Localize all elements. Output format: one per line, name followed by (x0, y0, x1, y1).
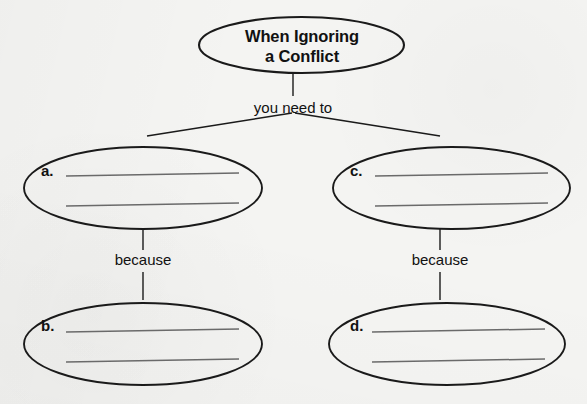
writing-line-a-1 (66, 173, 239, 176)
writing-line-b-1 (66, 329, 239, 332)
ellipse-label-c: c. (350, 163, 363, 178)
writing-line-d-1 (372, 329, 545, 332)
ellipse-label-d: d. (350, 318, 363, 333)
writing-line-c-2 (375, 203, 548, 206)
ellipse-c[interactable] (333, 147, 570, 229)
writing-line-a-2 (66, 203, 239, 206)
because-label-left: because (83, 252, 203, 267)
because-label-right: because (380, 252, 500, 267)
connector-prompt-to-c (295, 113, 440, 136)
worksheet-graphic-organizer: When Ignoring a Conflict you need to bec… (0, 0, 587, 404)
page-title: When Ignoring a Conflict (199, 26, 405, 66)
ellipse-label-b: b. (41, 318, 54, 333)
ellipse-label-a: a. (41, 163, 54, 178)
page-title-line-1: When Ignoring (245, 27, 359, 45)
page-title-line-2: a Conflict (265, 47, 339, 65)
ellipse-b[interactable] (24, 303, 262, 385)
prompt-label: you need to (233, 100, 353, 115)
ellipse-d[interactable] (329, 303, 565, 385)
connector-prompt-to-a (147, 113, 292, 136)
writing-line-b-2 (66, 359, 239, 362)
writing-line-d-2 (372, 359, 545, 362)
ellipse-a[interactable] (24, 147, 262, 229)
writing-line-c-1 (375, 173, 548, 176)
